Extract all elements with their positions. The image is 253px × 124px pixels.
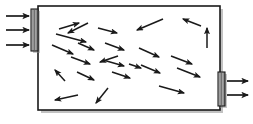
outlet-membrane	[218, 72, 227, 108]
inlet-flow-arrows	[6, 16, 29, 45]
gas-container-diagram	[0, 0, 253, 124]
outlet-flow-arrows	[227, 81, 248, 95]
inlet-membrane	[31, 9, 40, 53]
figure-root	[0, 0, 253, 124]
chamber-body	[38, 6, 220, 110]
